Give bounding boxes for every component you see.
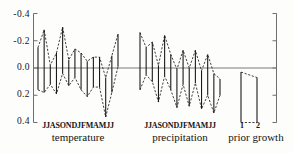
panel-ticklabels-precipitation: JJASONDJFMAMJJ <box>136 121 224 130</box>
prior-growth-tick-2: 2 <box>252 121 264 130</box>
panel-prior-growth <box>241 72 257 122</box>
lower-bound-dashed-line <box>241 72 257 77</box>
panel-precipitation <box>140 33 220 113</box>
panel-temperature <box>38 27 118 117</box>
data-series-layer <box>38 27 257 122</box>
panel-label-precipitation: precipitation <box>136 131 224 143</box>
prior-growth-tick-1: 1 <box>236 121 248 130</box>
panel-label-prior-growth: prior growth <box>220 131 292 143</box>
chart-figure: -0.4 -0.2 0.0 0.2 0.4 JJASONDJFMAMJJ tem… <box>0 0 293 153</box>
panel-ticklabels-temperature: JJASONDJFMAMJJ <box>34 121 122 130</box>
panel-label-temperature: temperature <box>34 131 122 143</box>
